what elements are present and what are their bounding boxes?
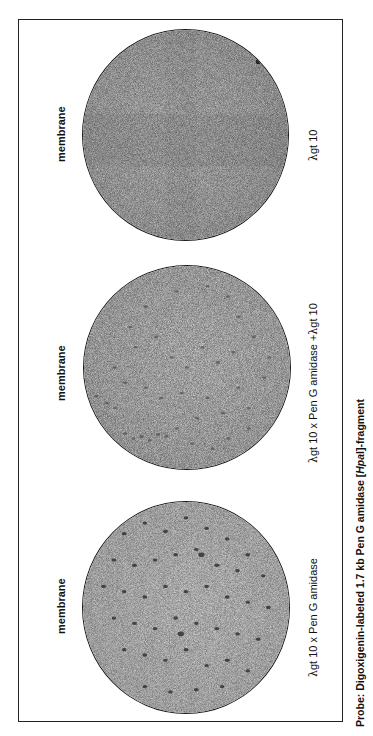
lambda-symbol: λ	[307, 154, 320, 161]
lambda-symbol: λ	[307, 328, 320, 335]
membrane-disc-lambda-gt10	[82, 29, 289, 241]
membrane-texture	[84, 266, 290, 469]
membrane-texture	[83, 30, 288, 240]
caption-suffix: ]-fragment	[354, 399, 366, 451]
sample-label-bottom: λgt 10 x Pen G amidase	[307, 558, 320, 677]
membrane-disc-mixture	[83, 265, 291, 470]
caption-enzyme-italic: Hpa	[354, 454, 366, 474]
membrane-disc-pen-g-amidase	[82, 501, 290, 714]
lambda-symbol: λ	[307, 670, 320, 677]
caption-enzyme-roman: I	[354, 451, 366, 454]
sample-label-middle: λgt 10 x Pen G amidase +λgt 10	[307, 303, 320, 463]
sample-label-top: λgt 10	[307, 130, 320, 161]
sample-label-text: gt 10	[307, 130, 319, 154]
membrane-label-top: membrane	[55, 106, 67, 162]
membrane-texture	[83, 502, 289, 713]
figure-caption: Probe: Digoxigenin-labeled 1.7 kb Pen G …	[354, 399, 366, 727]
sample-label-text: gt 10 x Pen G amidase	[307, 558, 319, 670]
sample-label-suffix: gt 10	[307, 303, 319, 327]
lambda-symbol: λ	[307, 456, 320, 463]
membrane-label-bottom: membrane	[55, 578, 67, 634]
sample-label-text: gt 10 x Pen G amidase +	[307, 335, 319, 456]
membrane-label-middle: membrane	[55, 345, 67, 401]
caption-prefix: Probe: Digoxigenin-labeled 1.7 kb Pen G …	[354, 474, 366, 727]
